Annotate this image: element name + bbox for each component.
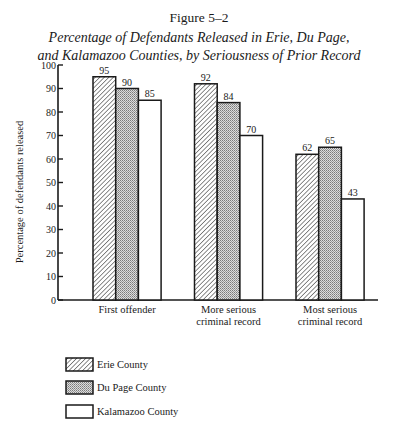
bar-value-label: 95 bbox=[99, 65, 109, 76]
y-tick-label: 40 bbox=[46, 201, 56, 212]
legend-swatch bbox=[66, 358, 93, 371]
y-tick-label: 90 bbox=[46, 83, 56, 94]
category-label: criminal record bbox=[298, 316, 363, 327]
bar-du-page-county bbox=[217, 103, 240, 300]
bar-kalamazoo-county bbox=[138, 100, 161, 300]
category-label: First offender bbox=[98, 304, 156, 315]
bar-value-label: 62 bbox=[302, 142, 312, 153]
x-axis-labels: First offenderMore seriouscriminal recor… bbox=[98, 304, 363, 327]
y-axis-label: Percentage of defendants released bbox=[14, 120, 25, 263]
category-label: Most serious bbox=[303, 304, 357, 315]
y-tick-label: 100 bbox=[41, 60, 56, 71]
y-tick-label: 20 bbox=[46, 248, 56, 259]
bar-value-label: 85 bbox=[145, 88, 155, 99]
legend-label: Erie County bbox=[97, 359, 149, 370]
y-tick-label: 50 bbox=[46, 177, 56, 188]
y-tick-label: 70 bbox=[46, 130, 56, 141]
bar-value-label: 90 bbox=[122, 77, 132, 88]
y-tick-label: 60 bbox=[46, 154, 56, 165]
legend-swatch bbox=[66, 405, 93, 418]
legend: Erie CountyDu Page CountyKalamazoo Count… bbox=[66, 358, 179, 418]
bar-erie-county bbox=[296, 154, 319, 300]
y-tick-label: 10 bbox=[46, 271, 56, 282]
y-tick-label: 30 bbox=[46, 224, 56, 235]
category-label: More serious bbox=[201, 304, 256, 315]
bar-value-label: 70 bbox=[246, 124, 256, 135]
bar-chart: 0102030405060708090100 95908592847062654… bbox=[0, 0, 398, 426]
bar-value-label: 43 bbox=[348, 187, 358, 198]
y-tick-label: 80 bbox=[46, 107, 56, 118]
bar-du-page-county bbox=[319, 147, 342, 300]
y-tick-label: 0 bbox=[51, 295, 56, 306]
bar-kalamazoo-county bbox=[240, 136, 263, 301]
bar-du-page-county bbox=[116, 89, 139, 301]
bar-value-label: 92 bbox=[201, 72, 211, 83]
bar-value-label: 65 bbox=[325, 135, 335, 146]
bar-erie-county bbox=[195, 84, 218, 300]
bar-value-label: 84 bbox=[224, 91, 234, 102]
legend-label: Du Page County bbox=[97, 382, 167, 393]
bar-kalamazoo-county bbox=[341, 199, 364, 300]
legend-label: Kalamazoo County bbox=[97, 406, 179, 417]
category-label: criminal record bbox=[196, 316, 261, 327]
y-axis-title: Percentage of defendants released bbox=[14, 120, 25, 263]
legend-swatch bbox=[66, 381, 93, 394]
bar-erie-county bbox=[93, 77, 116, 300]
bars: 959085928470626543 bbox=[93, 65, 364, 300]
